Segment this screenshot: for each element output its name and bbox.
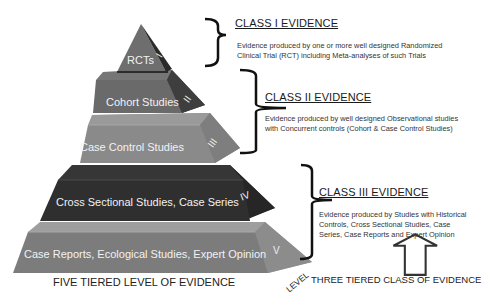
up-arrow-icon (393, 234, 437, 275)
tier-v-roman: V (273, 245, 280, 256)
tier-ii: Cohort Studies II (93, 70, 205, 113)
tier-iii: Case Control Studies III (80, 113, 240, 163)
class-iii-desc-line: Evidence produced by Studies with Histor… (319, 210, 466, 220)
class-i-brace (205, 19, 226, 66)
class-i-desc-line: Evidence produced by one or more well de… (237, 41, 442, 51)
tier-iii-label: Case Control Studies (80, 141, 184, 153)
class-ii-desc-line: Evidence produced by well designed Obser… (265, 114, 458, 124)
level-axis-label: LEVEL (284, 270, 311, 295)
tier-v-label: Case Reports, Ecological Studies, Expert… (24, 248, 266, 260)
class-i-desc-line: Clinical Trial (RCT) including Meta-anal… (237, 51, 442, 61)
class-iii-description: Evidence produced by Studies with Histor… (319, 210, 466, 240)
class-iii-title: CLASS III EVIDENCE (319, 186, 428, 198)
class-ii-title: CLASS II EVIDENCE (265, 91, 371, 103)
class-iii-desc-line: Controls, Cross Sectional Studies, Case (319, 220, 466, 230)
tier-iv: Cross Sectional Studies, Case Series IV (40, 165, 275, 221)
class-i-description: Evidence produced by one or more well de… (237, 41, 442, 61)
tier-v: Case Reports, Ecological Studies, Expert… (13, 222, 312, 273)
tier-i-label: RCTs (127, 54, 154, 66)
class-ii-description: Evidence produced by well designed Obser… (265, 114, 458, 134)
tier-i: RCTs I (117, 24, 172, 72)
tier-iv-label: Cross Sectional Studies, Case Series (56, 196, 239, 208)
class-caption: THREE TIERED CLASS OF EVIDENCE (311, 274, 481, 285)
tier-ii-label: Cohort Studies (106, 96, 179, 108)
pyramid-caption: FIVE TIERED LEVEL OF EVIDENCE (53, 276, 235, 288)
class-i-title: CLASS I EVIDENCE (235, 17, 338, 29)
class-ii-desc-line: with Concurrent controls (Cohort & Case … (265, 124, 458, 134)
class-ii-brace (240, 70, 286, 153)
class-iii-desc-line: Series, Case Reports and Expert Opinion (319, 230, 466, 240)
